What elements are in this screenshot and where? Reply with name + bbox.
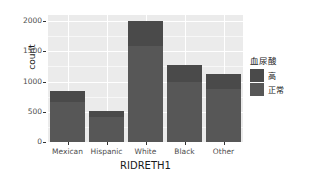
y-axis-tick-labels: 0500100015002000 [14, 0, 42, 184]
bar-segment-high [167, 65, 202, 83]
x-axis-tick-label: White [135, 147, 157, 156]
bar-white [128, 21, 163, 142]
y-axis-tick-label: 1000 [16, 78, 42, 86]
legend-items: 高正常 [250, 69, 284, 96]
y-axis-tick-mark [43, 82, 46, 83]
bar-segment-normal [206, 89, 241, 142]
y-axis-tick-mark [43, 51, 46, 52]
bar-black [167, 65, 202, 142]
bar-segment-high [128, 21, 163, 46]
x-axis-tick-label: Mexican [52, 147, 83, 156]
x-axis-tick-mark [68, 142, 69, 145]
bar-segment-normal [89, 117, 124, 142]
y-axis-tick-label: 2000 [16, 17, 42, 25]
legend-item[interactable]: 正常 [250, 83, 284, 96]
bar-segment-high [50, 91, 85, 102]
bar-hispanic [89, 111, 124, 142]
bar-segment-normal [50, 102, 85, 142]
y-axis-tick-label: 0 [16, 138, 42, 146]
x-axis-tick-mark [185, 142, 186, 145]
legend: 血尿酸 高正常 [250, 54, 284, 97]
x-axis-tick-label: Other [213, 147, 234, 156]
bar-segment-normal [167, 82, 202, 142]
legend-color-swatch [250, 83, 264, 96]
legend-color-swatch [250, 69, 264, 82]
y-axis-tick-mark [43, 112, 46, 113]
bar-segment-normal [128, 46, 163, 142]
y-axis-tick-mark [43, 21, 46, 22]
bar-chart: count 0500100015002000 MexicanHispanicWh… [0, 0, 309, 184]
x-axis-tick-label: Black [174, 147, 194, 156]
x-axis-tick-mark [107, 142, 108, 145]
legend-title: 血尿酸 [250, 54, 284, 66]
bar-segment-high [206, 74, 241, 89]
y-axis-tick-label: 500 [16, 108, 42, 116]
x-axis-tick-mark [146, 142, 147, 145]
plot-panel [48, 15, 243, 142]
legend-item-label: 高 [268, 70, 276, 81]
y-axis-tick-mark [43, 142, 46, 143]
x-axis-tick-label: Hispanic [91, 147, 123, 156]
x-axis-title: RIDRETH1 [48, 160, 243, 171]
bar-mexican [50, 91, 85, 142]
legend-item[interactable]: 高 [250, 69, 284, 82]
legend-item-label: 正常 [268, 84, 284, 95]
bar-other [206, 74, 241, 142]
x-axis-tick-mark [224, 142, 225, 145]
y-axis-tick-label: 1500 [16, 47, 42, 55]
